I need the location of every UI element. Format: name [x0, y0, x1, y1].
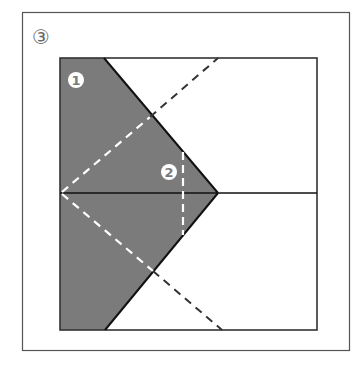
svg-text:2: 2: [164, 165, 173, 180]
step-marker-1: 1: [68, 72, 84, 88]
origami-diagram: ③ 1 2: [0, 0, 362, 366]
svg-text:1: 1: [71, 73, 80, 88]
step-marker-2: 2: [161, 164, 177, 180]
step-label: ③: [32, 25, 50, 49]
